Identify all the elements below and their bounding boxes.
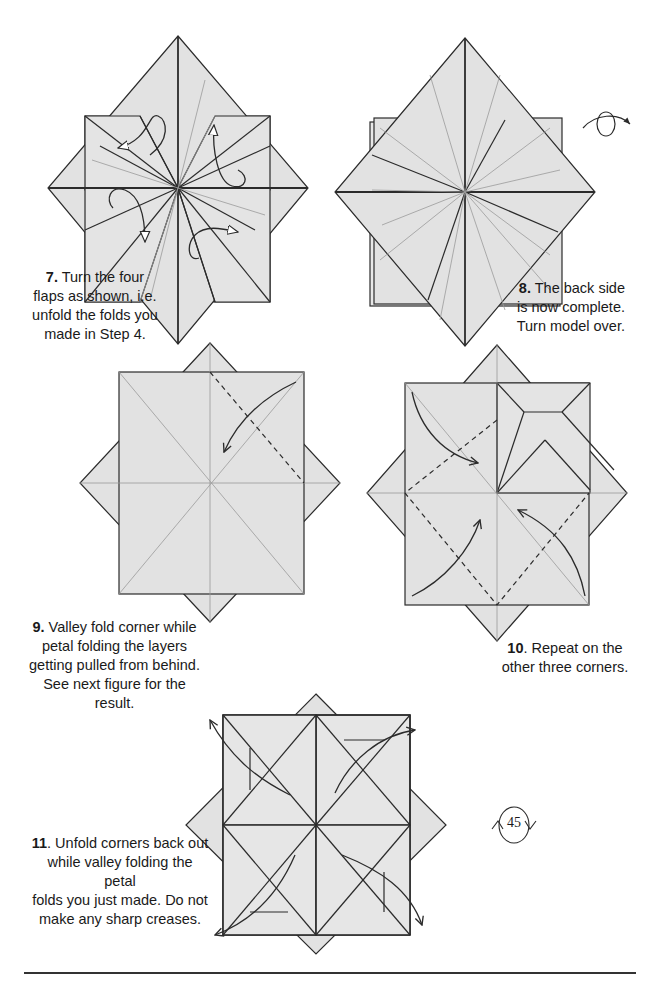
step-11-line-3: folds you just made. Do not — [30, 891, 210, 910]
step-8-number: 8. — [519, 280, 531, 296]
step-7-line-2: flaps as shown, i.e. — [30, 287, 160, 306]
step-11-line-4: make any sharp creases. — [30, 910, 210, 929]
step-11-caption: 11. Unfold corners back out while valley… — [30, 834, 210, 929]
step-10-line-1: . Repeat on the — [523, 640, 622, 656]
step-9-caption: 9. Valley fold corner while petal foldin… — [22, 618, 207, 713]
step-8-caption: 8. The back side is now complete. Turn m… — [500, 279, 625, 336]
footer-divider — [24, 972, 636, 974]
step-8-line-2: is now complete. — [500, 298, 625, 317]
step-11-number: 11 — [32, 835, 47, 851]
turn-over-icon — [583, 112, 630, 136]
step-10-line-2: other three corners. — [495, 658, 635, 677]
step-7-line-3: unfold the folds you — [30, 306, 160, 325]
step-9-line-3: getting pulled from behind. — [22, 656, 207, 675]
step-7-caption: 7. Turn the four flaps as shown, i.e. un… — [30, 268, 160, 344]
step-9-line-4: See next figure for the result. — [22, 675, 207, 713]
step-9-diagram — [80, 343, 340, 622]
step-8-line-1: The back side — [535, 280, 625, 296]
step-10-caption: 10. Repeat on the other three corners. — [495, 639, 635, 677]
step-9-number: 9. — [32, 619, 44, 635]
step-10-number: 10 — [507, 640, 523, 656]
page-number: 45 — [503, 815, 525, 831]
step-11-line-2: while valley folding the petal — [30, 853, 210, 891]
step-7-number: 7. — [46, 269, 58, 285]
step-8-line-3: Turn model over. — [500, 317, 625, 336]
step-7-line-1: Turn the four — [62, 269, 144, 285]
step-9-line-1: Valley fold corner while — [49, 619, 197, 635]
step-9-line-2: petal folding the layers — [22, 637, 207, 656]
step-11-diagram — [186, 694, 446, 954]
step-11-line-1: . Unfold corners back out — [47, 835, 208, 851]
step-7-line-4: made in Step 4. — [30, 325, 160, 344]
step-10-diagram — [367, 345, 627, 641]
